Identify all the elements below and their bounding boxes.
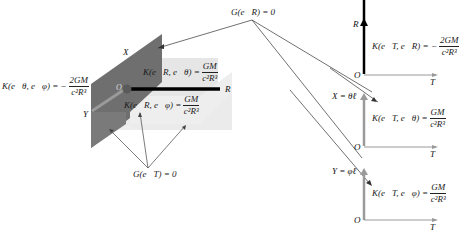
origin-dot bbox=[123, 85, 132, 94]
panel3-t-label: T bbox=[430, 223, 435, 232]
panel1-t-label: T bbox=[430, 78, 435, 87]
panel1-eq: K(e⃗T, e⃗R) = − 2GMc²R³ bbox=[372, 36, 459, 57]
r-axis-label: R bbox=[225, 85, 231, 94]
panel3-origin: O bbox=[354, 216, 361, 225]
g-et-label: G(e⃗T) = 0 bbox=[133, 170, 177, 179]
y-axis-label: Y bbox=[83, 110, 88, 119]
eq-theta-phi: K(e⃗θ, e⃗φ) = − 2GMc²R³ bbox=[2, 76, 89, 97]
panel3-vertical-label: Y = φ̇ℓ bbox=[332, 167, 356, 176]
origin-label: O bbox=[116, 84, 122, 92]
x-axis-label: X bbox=[123, 48, 129, 57]
panel3-eq: K(e⃗T, e⃗φ) = GMc²R³ bbox=[372, 183, 446, 204]
panel2-eq: K(e⃗T, e⃗θ) = GMc²R³ bbox=[372, 108, 446, 129]
eq-r-theta: K(e⃗R, e⃗θ) = GMc²R³ bbox=[143, 62, 218, 83]
panel2-origin: O bbox=[354, 143, 361, 152]
panel2-vertical-label: X = θ̇ℓ bbox=[332, 92, 356, 101]
panel2-t-label: T bbox=[430, 150, 435, 159]
panel1-vertical-label: R bbox=[353, 20, 359, 29]
eq-r-phi: K(e⃗R, e⃗φ) = GMc²R³ bbox=[124, 95, 199, 116]
panel1-origin: O bbox=[354, 71, 361, 80]
g-er-label: G(e⃗R) = 0 bbox=[231, 8, 275, 17]
